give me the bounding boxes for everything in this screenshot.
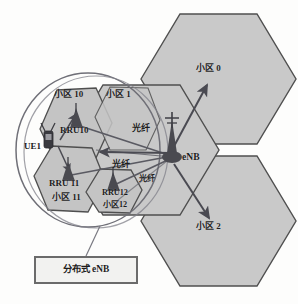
label-fiber-2: 光纤	[112, 160, 130, 169]
label-fiber-1: 光纤	[132, 124, 150, 133]
label-cell12: 小区12	[103, 201, 127, 209]
enb-to-distributed-arrow	[100, 152, 172, 153]
legend-distributed-enb-box: 分布式 eNB	[34, 256, 138, 284]
label-fiber-3: 光纤	[139, 175, 155, 183]
label-rru10: RRU10	[60, 126, 89, 135]
label-cell1: 小区 1	[106, 90, 131, 99]
label-cell2: 小区 2	[196, 222, 221, 231]
label-rru12: RRU12	[102, 189, 128, 197]
legend-leader-line	[86, 226, 100, 256]
label-cell11: 小区 11	[52, 193, 81, 202]
label-cell10: 小区 10	[54, 90, 83, 99]
label-cell0: 小区 0	[196, 64, 221, 73]
label-ue1: UE1	[24, 142, 41, 151]
diagram-canvas: 小区 0 小区 2 小区 10 小区 1 小区 11 小区12 RRU10 RR…	[0, 0, 298, 304]
legend-label: 分布式 eNB	[63, 265, 110, 274]
label-rru11: RRU 11	[49, 179, 79, 188]
label-enb: eNB	[182, 152, 200, 162]
